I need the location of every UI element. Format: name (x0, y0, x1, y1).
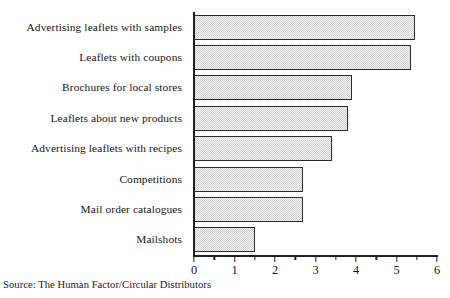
x-tick-minor (416, 256, 417, 260)
bar (194, 136, 332, 161)
bar (194, 106, 348, 131)
bar-row (194, 194, 437, 224)
x-tick-label: 4 (353, 263, 359, 278)
bar (194, 197, 303, 222)
category-label: Advertising leaflets with samples (0, 12, 188, 42)
x-tick-major (436, 256, 437, 262)
bar-row (194, 225, 437, 255)
category-label: Mailshots (0, 225, 188, 255)
bar-chart: Advertising leaflets with samples Leafle… (0, 0, 450, 298)
x-tick-label: 5 (393, 263, 399, 278)
x-tick-label: 0 (191, 263, 197, 278)
x-tick-major (274, 256, 275, 262)
x-tick-major (234, 256, 235, 262)
category-label: Brochures for local stores (0, 73, 188, 103)
bar-row (194, 42, 437, 72)
x-tick-label: 6 (434, 263, 440, 278)
x-axis-ticks: 0123456 (194, 256, 437, 276)
category-axis-labels: Advertising leaflets with samples Leafle… (0, 12, 188, 255)
x-tick-minor (295, 256, 296, 260)
category-label: Advertising leaflets with recipes (0, 134, 188, 164)
bar-series (194, 12, 437, 255)
bar (194, 75, 352, 100)
x-tick-label: 3 (312, 263, 318, 278)
x-tick-label: 2 (272, 263, 278, 278)
bar-row (194, 103, 437, 133)
bar-row (194, 134, 437, 164)
category-label: Competitions (0, 164, 188, 194)
x-tick-major (315, 256, 316, 262)
category-label: Leaflets with coupons (0, 42, 188, 72)
bar (194, 45, 411, 70)
x-tick-minor (254, 256, 255, 260)
x-tick-major (193, 256, 194, 262)
x-tick-major (355, 256, 356, 262)
bar (194, 15, 415, 40)
bar-row (194, 12, 437, 42)
x-tick-major (396, 256, 397, 262)
category-label: Leaflets about new products (0, 103, 188, 133)
x-tick-minor (214, 256, 215, 260)
plot-area: 0123456 (194, 12, 437, 255)
category-label: Mail order catalogues (0, 194, 188, 224)
bar (194, 167, 303, 192)
y-axis-line (193, 12, 195, 255)
x-tick-minor (335, 256, 336, 260)
x-tick-label: 1 (231, 263, 237, 278)
bar-row (194, 164, 437, 194)
x-tick-minor (376, 256, 377, 260)
source-note: Source: The Human Factor/Circular Distri… (3, 279, 211, 290)
bar (194, 227, 255, 252)
bar-row (194, 73, 437, 103)
